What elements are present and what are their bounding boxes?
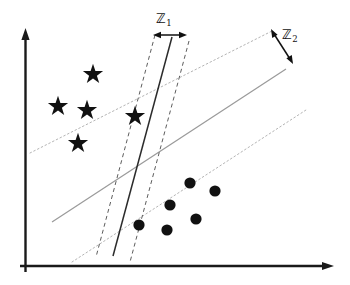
z2-arrow-head-bottom <box>286 55 293 64</box>
z2-subscript: 2 <box>292 34 297 44</box>
star-point <box>83 64 103 83</box>
star-point <box>125 106 145 125</box>
star-point <box>77 100 97 119</box>
x-axis-arrowhead <box>322 262 334 270</box>
circle-point <box>133 219 144 230</box>
z1-subscript: 1 <box>166 18 171 28</box>
star-data-points <box>48 64 145 152</box>
secondary-boundary-line <box>52 69 286 222</box>
svm-margin-figure: ℤ1 ℤ2 <box>0 0 350 285</box>
circle-point <box>161 224 172 235</box>
circle-point <box>190 213 201 224</box>
z2-label: ℤ2 <box>282 28 297 41</box>
star-point <box>68 133 88 152</box>
circle-point <box>209 185 220 196</box>
axes-group <box>20 28 334 272</box>
star-point <box>48 96 68 115</box>
circle-point <box>184 177 195 188</box>
primary-margin-upper-line <box>96 35 155 257</box>
circle-data-points <box>133 177 220 235</box>
z2-arrow-head-top <box>271 29 278 38</box>
circle-point <box>164 199 175 210</box>
z1-arrow-head-right <box>179 32 187 38</box>
y-axis-arrowhead <box>21 28 29 40</box>
z1-label: ℤ1 <box>156 12 171 25</box>
z2-symbol: ℤ <box>282 27 292 42</box>
z1-margin-arrow <box>153 32 187 38</box>
z1-symbol: ℤ <box>156 11 166 26</box>
